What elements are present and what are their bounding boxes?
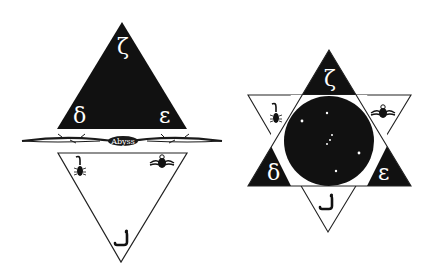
glyph-delta: δ bbox=[73, 103, 86, 128]
glyph-zeta: ζ bbox=[117, 34, 129, 59]
left-figure: ζ δ ε Abyss bbox=[22, 22, 222, 262]
right-figure: ζ δ ε bbox=[248, 50, 411, 232]
glyph-epsilon: ε bbox=[159, 103, 170, 128]
center-night-circle bbox=[284, 96, 374, 186]
glyph-delta: δ bbox=[267, 160, 280, 185]
glyph-zeta: ζ bbox=[324, 66, 336, 91]
diagram-canvas: ζ δ ε Abyss bbox=[0, 0, 435, 278]
glyph-epsilon: ε bbox=[378, 160, 389, 185]
abyss-label: Abyss bbox=[110, 137, 135, 146]
abyss-divider: Abyss bbox=[22, 134, 222, 146]
